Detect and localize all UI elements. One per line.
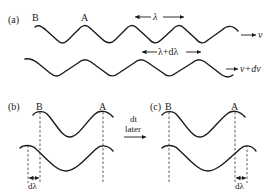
wave-1 bbox=[35, 26, 238, 43]
speed-label-v: v bbox=[258, 29, 263, 40]
dlambda-label: dλ bbox=[28, 181, 38, 191]
panel-c-label: (c) bbox=[150, 101, 161, 113]
crest-label-a: A bbox=[231, 101, 239, 112]
crest-label-b: B bbox=[32, 12, 39, 23]
wave-lower bbox=[162, 146, 256, 172]
crest-label-b: B bbox=[165, 101, 172, 112]
time-transition: dt later bbox=[124, 114, 146, 137]
panel-b-label: (b) bbox=[8, 101, 20, 113]
crest-label-a: A bbox=[81, 12, 89, 23]
panel-b: (b) B A dλ bbox=[8, 101, 113, 191]
later-label: later bbox=[125, 124, 141, 134]
panel-a-label: (a) bbox=[8, 14, 19, 26]
wave-upper bbox=[162, 111, 245, 137]
panel-a: (a) B A λ v λ+dλ v+dv bbox=[8, 11, 263, 77]
dlambda-label: dλ bbox=[235, 181, 245, 191]
wavelength-label-lambda: λ bbox=[152, 11, 158, 22]
wave-upper bbox=[33, 111, 113, 137]
speed-label-v-dv: v+dv bbox=[240, 63, 261, 74]
panel-c: (c) B A dλ bbox=[150, 101, 256, 191]
crest-label-a: A bbox=[99, 101, 107, 112]
wave-group-velocity-diagram: (a) B A λ v λ+dλ v+dv (b) B A dλ bbox=[0, 0, 269, 192]
dt-label: dt bbox=[130, 114, 138, 124]
crest-label-b: B bbox=[36, 101, 43, 112]
wave-2 bbox=[25, 59, 233, 77]
wavelength-label-lambda-dlambda: λ+dλ bbox=[158, 46, 178, 57]
wave-lower bbox=[20, 146, 113, 172]
